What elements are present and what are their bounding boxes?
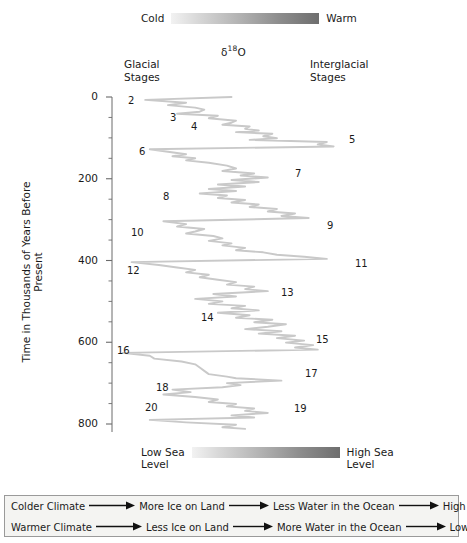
legend-cell-1-2: More Water in the Ocean	[277, 522, 402, 533]
stage-label-18: 18	[156, 382, 169, 393]
legend-arrow-icon	[399, 501, 439, 512]
stage-label-14: 14	[201, 312, 214, 323]
stage-label-19: 19	[294, 403, 307, 414]
stage-label-8: 8	[163, 191, 169, 202]
stage-label-20: 20	[145, 402, 158, 413]
y-tick-label-200: 200	[64, 172, 98, 184]
low-sea-level-label: Low Sea Level	[141, 446, 185, 470]
stage-label-6: 6	[139, 146, 145, 157]
legend-cell-0-0: Colder Climate	[11, 501, 85, 512]
legend-cell-1-1: Less Ice on Land	[146, 522, 229, 533]
stage-label-7: 7	[295, 168, 301, 179]
legend-arrow-icon	[229, 501, 269, 512]
stage-label-3: 3	[170, 112, 176, 123]
high-sea-level-label: High Sea Level	[347, 446, 394, 470]
isotope-figure: Cold Warm δ18O Glacial Stages Interglaci…	[0, 0, 467, 543]
legend-arrow-icon	[96, 522, 142, 533]
stage-label-5: 5	[349, 134, 355, 145]
y-tick-label-0: 0	[64, 90, 98, 102]
sea-level-scale: Low Sea Level High Sea Level	[141, 446, 394, 470]
stage-label-12: 12	[127, 265, 140, 276]
legend-cell-1-0: Warmer Climate	[11, 522, 92, 533]
sea-level-gradient-bar	[192, 447, 340, 458]
legend-cell-0-1: More Ice on Land	[139, 501, 225, 512]
climate-chain-legend: Colder ClimateMore Ice on LandLess Water…	[4, 495, 459, 537]
legend-row-1: Warmer ClimateLess Ice on LandMore Water…	[5, 517, 458, 538]
stage-label-2: 2	[128, 95, 134, 106]
isotope-curve-svg	[0, 0, 467, 470]
stage-label-10: 10	[131, 227, 144, 238]
stage-label-16: 16	[117, 345, 130, 356]
stage-label-17: 17	[305, 368, 318, 379]
y-tick-label-600: 600	[64, 335, 98, 347]
stage-label-4: 4	[191, 121, 197, 132]
legend-row-0: Colder ClimateMore Ice on LandLess Water…	[5, 496, 458, 517]
legend-cell-1-3: Low Ratio of 18O to 16O	[450, 521, 467, 533]
y-tick-label-400: 400	[64, 254, 98, 266]
legend-arrow-icon	[89, 501, 135, 512]
y-tick-label-800: 800	[64, 417, 98, 429]
stage-label-13: 13	[281, 287, 294, 298]
stage-label-11: 11	[355, 258, 368, 269]
legend-cell-0-3: High Ratio of 18O to 16O	[443, 500, 467, 512]
isotope-curve-0	[123, 97, 334, 429]
legend-arrow-icon	[233, 522, 273, 533]
legend-cell-0-2: Less Water in the Ocean	[273, 501, 395, 512]
legend-arrow-icon	[406, 522, 446, 533]
stage-label-9: 9	[327, 220, 333, 231]
stage-label-15: 15	[316, 334, 329, 345]
plot-area: Time in Thousands of Years Before Presen…	[0, 0, 467, 470]
